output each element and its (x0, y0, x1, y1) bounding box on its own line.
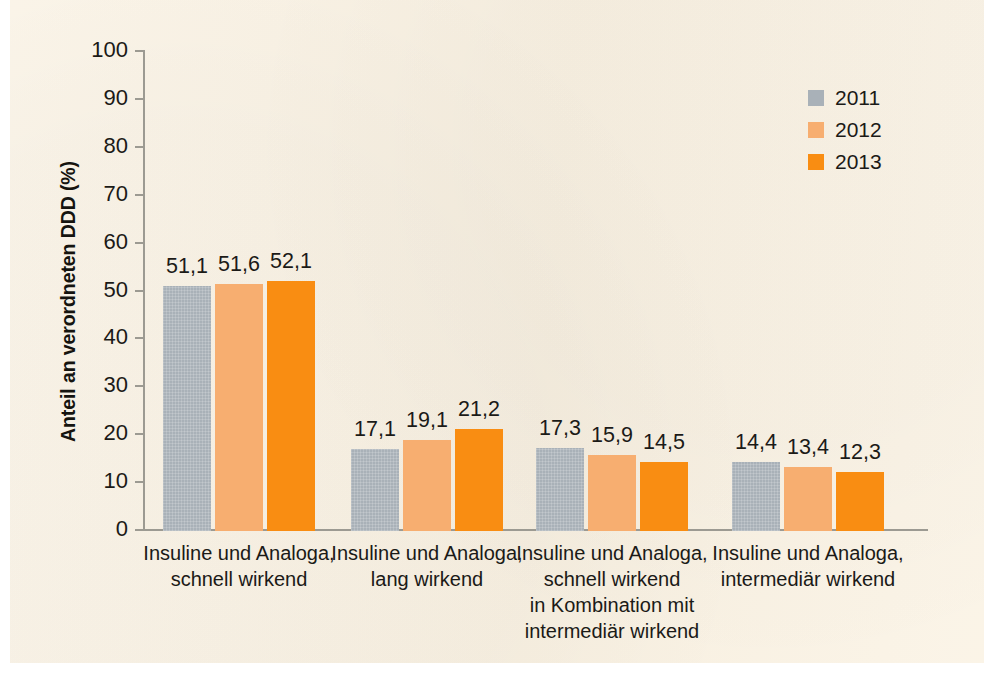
y-axis-tick-label: 90 (72, 85, 128, 111)
bar-2012-group1[interactable] (215, 284, 263, 531)
y-axis-tick-label-text: 80 (82, 133, 128, 159)
legend-item-label: 2011 (835, 86, 880, 110)
bar-value-label: 21,2 (440, 397, 518, 422)
legend-item-label: 2013 (835, 150, 882, 174)
y-axis-tick-label: 100 (72, 37, 128, 63)
y-axis-tick-label: 20 (72, 420, 128, 446)
y-axis-tick-label-text: 30 (82, 372, 128, 398)
y-axis-tick-label-text: 70 (82, 181, 128, 207)
y-axis-tick-label-text: 10 (82, 468, 128, 494)
bar-chart-plot-area: Anteil an verordneten DDD (%) 1009080706… (10, 0, 984, 663)
bar-2012-group2[interactable] (403, 440, 451, 531)
y-axis-tick-label-text: 90 (82, 85, 128, 111)
bar-2011-group2[interactable] (351, 449, 399, 531)
y-axis-tick-label: 80 (72, 133, 128, 159)
legend-item-2011[interactable]: 2011 (808, 82, 882, 114)
y-axis-line (143, 50, 145, 531)
x-axis-category-label-1: Insuline und Analoga,schnell wirkend (129, 540, 349, 592)
legend-swatch-icon (808, 122, 824, 138)
bar-2013-group4[interactable] (836, 472, 884, 531)
bar-2012-group4[interactable] (784, 467, 832, 531)
bar-value-label: 52,1 (252, 249, 330, 274)
y-axis-tick-label: 10 (72, 468, 128, 494)
y-axis-tick-label-text: 60 (82, 229, 128, 255)
bar-2012-group3[interactable] (588, 455, 636, 531)
x-axis-category-label-3: Insuline und Analoga,schnell wirkendin K… (502, 540, 722, 644)
category-label-line: Insuline und Analoga, (502, 540, 722, 566)
y-axis-tick-label-text: 0 (82, 516, 128, 542)
bar-2011-group4[interactable] (732, 462, 780, 531)
y-axis-tick-label: 60 (72, 229, 128, 255)
category-label-line: in Kombination mit (502, 592, 722, 618)
category-label-line: Insuline und Analoga, (698, 540, 918, 566)
y-axis-tick-label: 0 (72, 516, 128, 542)
legend-swatch-icon (808, 90, 824, 106)
category-label-line: schnell wirkend (129, 566, 349, 592)
chart-legend: 201120122013 (808, 82, 882, 178)
y-axis-tick-label: 40 (72, 324, 128, 350)
y-axis-tick-label: 30 (72, 372, 128, 398)
bar-2011-group1[interactable] (163, 286, 211, 531)
category-label-line: intermediär wirkend (698, 566, 918, 592)
y-axis-tick-label: 50 (72, 277, 128, 303)
x-axis-category-label-4: Insuline und Analoga,intermediär wirkend (698, 540, 918, 592)
legend-item-2013[interactable]: 2013 (808, 146, 882, 178)
category-label-line: intermediär wirkend (502, 618, 722, 644)
y-axis-tick-label: 70 (72, 181, 128, 207)
legend-item-label: 2012 (835, 118, 882, 142)
category-label-line: schnell wirkend (502, 566, 722, 592)
y-axis-tick-label-text: 20 (82, 420, 128, 446)
bar-2013-group1[interactable] (267, 281, 315, 531)
bar-value-label: 12,3 (821, 440, 899, 465)
bar-value-label: 14,5 (625, 430, 703, 455)
chart-figure: Anteil an verordneten DDD (%) 1009080706… (10, 0, 984, 663)
legend-swatch-icon (808, 154, 824, 170)
bar-2011-group3[interactable] (536, 448, 584, 531)
bar-2013-group2[interactable] (455, 429, 503, 531)
y-axis-tick-label-text: 40 (82, 324, 128, 350)
legend-item-2012[interactable]: 2012 (808, 114, 882, 146)
category-label-line: Insuline und Analoga, (129, 540, 349, 566)
bar-2013-group3[interactable] (640, 462, 688, 531)
y-axis-tick-label-text: 100 (82, 37, 128, 63)
y-axis-tick-label-text: 50 (82, 277, 128, 303)
